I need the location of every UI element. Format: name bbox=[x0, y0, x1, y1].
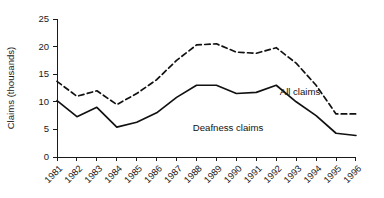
x-tick-label: 1990 bbox=[222, 163, 244, 185]
x-tick-label: 1981 bbox=[43, 163, 65, 185]
x-axis-group: 1981198219831984198519861987198819891990… bbox=[43, 157, 364, 185]
y-axis-group: 0510152025 bbox=[38, 13, 57, 162]
x-tick-label: 1985 bbox=[122, 163, 144, 185]
x-tick-label: 1991 bbox=[242, 163, 264, 185]
x-tick-label: 1982 bbox=[63, 163, 85, 185]
y-tick-group: 0510152025 bbox=[38, 13, 57, 162]
y-tick-label: 5 bbox=[44, 123, 49, 134]
x-tick-label: 1986 bbox=[142, 163, 164, 185]
x-tick-label: 1995 bbox=[322, 163, 344, 185]
series-line-all-claims bbox=[57, 44, 356, 114]
y-tick-label: 15 bbox=[38, 68, 49, 79]
line-chart-claims: 0510152025 19811982198319841985198619871… bbox=[0, 0, 384, 198]
x-tick-group: 1981198219831984198519861987198819891990… bbox=[43, 157, 364, 185]
x-tick-label: 1994 bbox=[302, 163, 324, 185]
chart-canvas: 0510152025 19811982198319841985198619871… bbox=[0, 0, 384, 198]
y-tick-label: 20 bbox=[38, 41, 49, 52]
x-tick-label: 1983 bbox=[83, 163, 105, 185]
x-tick-label: 1988 bbox=[182, 163, 204, 185]
y-tick-label: 10 bbox=[38, 96, 49, 107]
series-annotation-deafness-claims: Deafness claims bbox=[193, 122, 264, 133]
y-axis-title: Claims (thousands) bbox=[5, 47, 16, 130]
x-tick-label: 1987 bbox=[162, 163, 184, 185]
x-tick-label: 1996 bbox=[342, 163, 364, 185]
x-tick-label: 1989 bbox=[202, 163, 224, 185]
y-tick-label: 25 bbox=[38, 13, 49, 24]
x-tick-label: 1984 bbox=[103, 163, 125, 185]
y-tick-label: 0 bbox=[44, 151, 49, 162]
series-annotation-all-claims: All claims bbox=[280, 86, 321, 97]
x-tick-label: 1993 bbox=[282, 163, 304, 185]
x-tick-label: 1992 bbox=[262, 163, 284, 185]
